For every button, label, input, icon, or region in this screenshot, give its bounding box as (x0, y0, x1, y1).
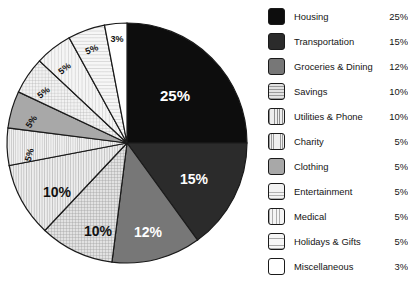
legend-swatch-icon (268, 8, 285, 25)
legend-swatch-icon (268, 233, 285, 250)
legend-swatch-icon (268, 83, 285, 100)
pie-chart-area: 25%15%12%10%10%5%5%5%5%5%3% (0, 0, 252, 298)
legend-swatch-icon (268, 133, 285, 150)
legend-value: 5% (384, 161, 408, 172)
legend-value: 12% (384, 61, 408, 72)
legend-value: 3% (384, 261, 408, 272)
legend-label: Holidays & Gifts (294, 236, 384, 247)
legend-row[interactable]: Transportation15% (268, 29, 408, 54)
legend-swatch-icon (268, 58, 285, 75)
legend-value: 5% (384, 211, 408, 222)
pie-slice-label: 25% (160, 87, 190, 104)
legend-value: 10% (384, 111, 408, 122)
legend-row[interactable]: Groceries & Dining12% (268, 54, 408, 79)
legend-value: 15% (384, 36, 408, 47)
pie-slice-label: 10% (84, 223, 113, 239)
legend-swatch-icon (268, 208, 285, 225)
legend-swatch-icon (268, 108, 285, 125)
legend-value: 5% (384, 136, 408, 147)
legend-row[interactable]: Holidays & Gifts5% (268, 229, 408, 254)
pie-slice (127, 23, 247, 143)
legend-row[interactable]: Savings10% (268, 79, 408, 104)
legend-row[interactable]: Charity5% (268, 129, 408, 154)
legend-swatch-icon (268, 258, 285, 275)
legend-label: Charity (294, 136, 384, 147)
pie-chart-figure: 25%15%12%10%10%5%5%5%5%5%3% Housing25%Tr… (0, 0, 408, 298)
legend-swatch-icon (268, 183, 285, 200)
legend-label: Savings (294, 86, 384, 97)
legend-label: Housing (294, 11, 384, 22)
legend-row[interactable]: Clothing5% (268, 154, 408, 179)
legend-value: 5% (384, 186, 408, 197)
legend-value: 5% (384, 236, 408, 247)
pie-slice-label: 3% (110, 34, 123, 44)
legend-label: Transportation (294, 36, 384, 47)
legend-swatch-icon (268, 33, 285, 50)
legend-label: Miscellaneous (294, 261, 384, 272)
pie-slice-label: 15% (180, 171, 209, 187)
pie-slice-label: 10% (43, 184, 72, 200)
legend-row[interactable]: Medical5% (268, 204, 408, 229)
pie-chart-svg: 25%15%12%10%10%5%5%5%5%5%3% (0, 0, 252, 298)
legend-row[interactable]: Miscellaneous3% (268, 254, 408, 279)
legend-label: Utilities & Phone (294, 111, 384, 122)
legend-value: 10% (384, 86, 408, 97)
legend-swatch-icon (268, 158, 285, 175)
legend-row[interactable]: Housing25% (268, 4, 408, 29)
pie-slice-label: 12% (134, 224, 163, 240)
legend-label: Entertainment (294, 186, 384, 197)
pie-slices (7, 23, 247, 263)
legend-row[interactable]: Utilities & Phone10% (268, 104, 408, 129)
legend-label: Medical (294, 211, 384, 222)
legend-value: 25% (384, 11, 408, 22)
legend-label: Clothing (294, 161, 384, 172)
legend-row[interactable]: Entertainment5% (268, 179, 408, 204)
legend-label: Groceries & Dining (294, 61, 384, 72)
chart-legend: Housing25%Transportation15%Groceries & D… (268, 4, 408, 279)
